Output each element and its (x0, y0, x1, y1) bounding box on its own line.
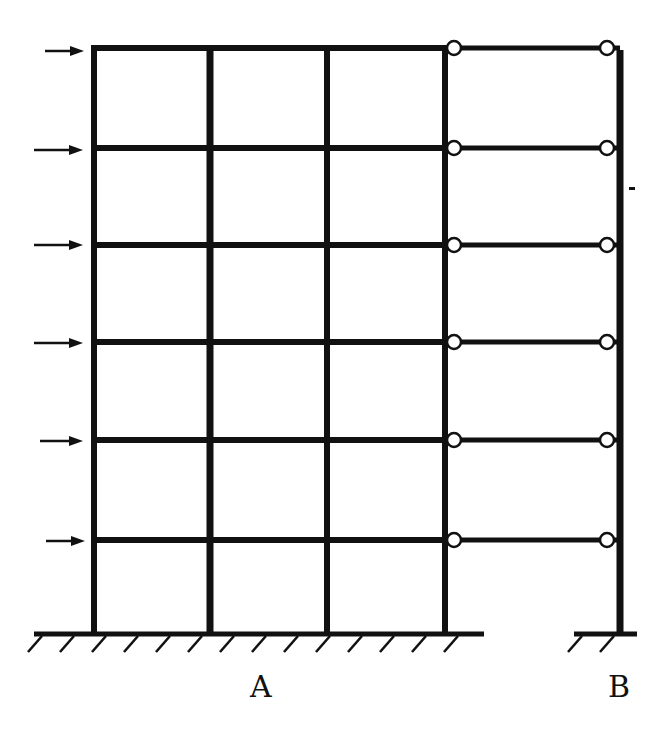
ground-hatch (380, 636, 394, 652)
ground-hatch (444, 636, 458, 652)
ground-supports (28, 634, 637, 652)
hinge-right-floor-2 (600, 433, 614, 447)
label-frame-a: A (250, 672, 272, 702)
ground-hatch (156, 636, 170, 652)
hinge-right-floor-4 (600, 238, 614, 252)
hinge-right-floor-3 (600, 335, 614, 349)
hinges (447, 41, 614, 547)
hinge-left-floor-6 (447, 41, 461, 55)
ground-hatch (188, 636, 202, 652)
load-arrow-icon (71, 536, 85, 546)
hinge-left-floor-3 (447, 335, 461, 349)
hinge-left-floor-2 (447, 433, 461, 447)
ground-hatch (28, 636, 42, 652)
hinge-right-floor-1 (600, 533, 614, 547)
ground-hatch (284, 636, 298, 652)
ground-hatch (124, 636, 138, 652)
frame-diagram (0, 0, 666, 734)
hinge-right-floor-6 (600, 41, 614, 55)
ground-hatch (252, 636, 266, 652)
ground-hatch (316, 636, 330, 652)
stray-mark (629, 187, 635, 190)
hinge-left-floor-5 (447, 141, 461, 155)
hinge-left-floor-4 (447, 238, 461, 252)
load-arrow-icon (69, 240, 83, 250)
ground-hatch (412, 636, 426, 652)
load-arrow-icon (69, 145, 83, 155)
ground-hatch (220, 636, 234, 652)
ground-hatch (600, 636, 614, 652)
label-column-b: B (608, 672, 630, 702)
beams (91, 48, 620, 540)
ground-hatch (568, 636, 582, 652)
ground-hatch (60, 636, 74, 652)
lateral-loads (34, 46, 635, 546)
ground-hatch (92, 636, 106, 652)
hinge-right-floor-5 (600, 141, 614, 155)
load-arrow-icon (69, 436, 83, 446)
load-arrow-icon (70, 46, 84, 56)
hinge-left-floor-1 (447, 533, 461, 547)
ground-hatch (348, 636, 362, 652)
load-arrow-icon (69, 338, 83, 348)
